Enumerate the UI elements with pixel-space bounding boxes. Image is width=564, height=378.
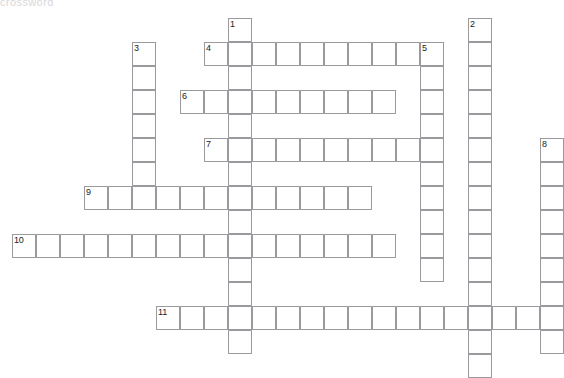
grid-cell[interactable] <box>540 138 564 162</box>
grid-cell[interactable] <box>204 186 228 210</box>
grid-cell[interactable] <box>420 114 444 138</box>
grid-cell[interactable] <box>228 162 252 186</box>
grid-cell[interactable] <box>468 330 492 354</box>
grid-cell[interactable] <box>468 138 492 162</box>
grid-cell[interactable] <box>348 138 372 162</box>
grid-cell[interactable] <box>420 258 444 282</box>
grid-cell[interactable] <box>228 138 252 162</box>
grid-cell[interactable] <box>132 234 156 258</box>
grid-cell[interactable] <box>468 210 492 234</box>
grid-cell[interactable] <box>204 138 228 162</box>
grid-cell[interactable] <box>228 66 252 90</box>
grid-cell[interactable] <box>276 90 300 114</box>
grid-cell[interactable] <box>396 138 420 162</box>
grid-cell[interactable] <box>228 186 252 210</box>
grid-cell[interactable] <box>468 306 492 330</box>
grid-cell[interactable] <box>468 114 492 138</box>
grid-cell[interactable] <box>348 42 372 66</box>
grid-cell[interactable] <box>324 90 348 114</box>
grid-cell[interactable] <box>132 114 156 138</box>
grid-cell[interactable] <box>540 330 564 354</box>
grid-cell[interactable] <box>132 66 156 90</box>
grid-cell[interactable] <box>540 186 564 210</box>
grid-cell[interactable] <box>540 258 564 282</box>
grid-cell[interactable] <box>252 234 276 258</box>
grid-cell[interactable] <box>132 162 156 186</box>
grid-cell[interactable] <box>108 234 132 258</box>
grid-cell[interactable] <box>84 234 108 258</box>
grid-cell[interactable] <box>348 90 372 114</box>
grid-cell[interactable] <box>348 306 372 330</box>
grid-cell[interactable] <box>372 306 396 330</box>
grid-cell[interactable] <box>228 330 252 354</box>
grid-cell[interactable] <box>540 282 564 306</box>
grid-cell[interactable] <box>300 234 324 258</box>
grid-cell[interactable] <box>228 210 252 234</box>
grid-cell[interactable] <box>156 234 180 258</box>
grid-cell[interactable] <box>276 234 300 258</box>
grid-cell[interactable] <box>60 234 84 258</box>
grid-cell[interactable] <box>372 138 396 162</box>
grid-cell[interactable] <box>324 138 348 162</box>
grid-cell[interactable] <box>324 186 348 210</box>
grid-cell[interactable] <box>204 90 228 114</box>
grid-cell[interactable] <box>300 138 324 162</box>
grid-cell[interactable] <box>228 90 252 114</box>
grid-cell[interactable] <box>372 42 396 66</box>
grid-cell[interactable] <box>180 234 204 258</box>
grid-cell[interactable] <box>300 42 324 66</box>
grid-cell[interactable] <box>276 186 300 210</box>
grid-cell[interactable] <box>468 234 492 258</box>
grid-cell[interactable] <box>228 42 252 66</box>
grid-cell[interactable] <box>420 138 444 162</box>
grid-cell[interactable] <box>204 234 228 258</box>
grid-cell[interactable] <box>540 162 564 186</box>
grid-cell[interactable] <box>252 90 276 114</box>
grid-cell[interactable] <box>300 306 324 330</box>
grid-cell[interactable] <box>540 234 564 258</box>
grid-cell[interactable] <box>324 306 348 330</box>
grid-cell[interactable] <box>348 234 372 258</box>
grid-cell[interactable] <box>252 42 276 66</box>
grid-cell[interactable] <box>228 18 252 42</box>
grid-cell[interactable] <box>420 162 444 186</box>
grid-cell[interactable] <box>468 42 492 66</box>
grid-cell[interactable] <box>468 354 492 378</box>
grid-cell[interactable] <box>180 306 204 330</box>
grid-cell[interactable] <box>420 210 444 234</box>
grid-cell[interactable] <box>300 186 324 210</box>
grid-cell[interactable] <box>276 138 300 162</box>
grid-cell[interactable] <box>396 42 420 66</box>
grid-cell[interactable] <box>444 306 468 330</box>
grid-cell[interactable] <box>12 234 36 258</box>
grid-cell[interactable] <box>156 306 180 330</box>
grid-cell[interactable] <box>468 66 492 90</box>
grid-cell[interactable] <box>420 186 444 210</box>
grid-cell[interactable] <box>468 186 492 210</box>
grid-cell[interactable] <box>540 306 564 330</box>
grid-cell[interactable] <box>276 42 300 66</box>
grid-cell[interactable] <box>468 18 492 42</box>
grid-cell[interactable] <box>276 306 300 330</box>
grid-cell[interactable] <box>468 162 492 186</box>
grid-cell[interactable] <box>132 138 156 162</box>
grid-cell[interactable] <box>132 90 156 114</box>
grid-cell[interactable] <box>204 42 228 66</box>
grid-cell[interactable] <box>252 138 276 162</box>
grid-cell[interactable] <box>420 42 444 66</box>
grid-cell[interactable] <box>228 258 252 282</box>
grid-cell[interactable] <box>516 306 540 330</box>
grid-cell[interactable] <box>132 186 156 210</box>
grid-cell[interactable] <box>468 282 492 306</box>
grid-cell[interactable] <box>300 90 324 114</box>
grid-cell[interactable] <box>420 90 444 114</box>
grid-cell[interactable] <box>540 210 564 234</box>
grid-cell[interactable] <box>372 90 396 114</box>
grid-cell[interactable] <box>228 282 252 306</box>
grid-cell[interactable] <box>180 186 204 210</box>
grid-cell[interactable] <box>420 234 444 258</box>
grid-cell[interactable] <box>108 186 132 210</box>
grid-cell[interactable] <box>84 186 108 210</box>
grid-cell[interactable] <box>396 306 420 330</box>
